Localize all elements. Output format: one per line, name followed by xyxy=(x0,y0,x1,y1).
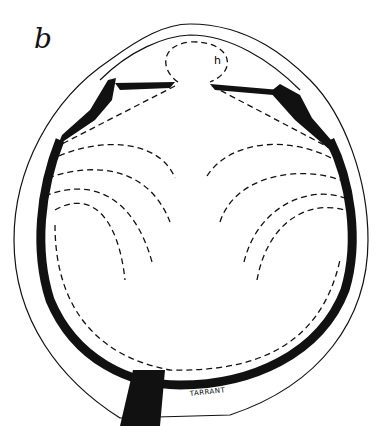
label-h: h xyxy=(214,54,221,67)
iris-right xyxy=(210,84,285,96)
iris-left xyxy=(115,82,175,90)
outer-outline xyxy=(14,24,368,418)
eye-diagram: h TARRANT xyxy=(0,0,381,439)
cornea-inner xyxy=(100,35,300,90)
choroid-ring xyxy=(41,140,352,385)
ciliary-left xyxy=(58,78,116,145)
